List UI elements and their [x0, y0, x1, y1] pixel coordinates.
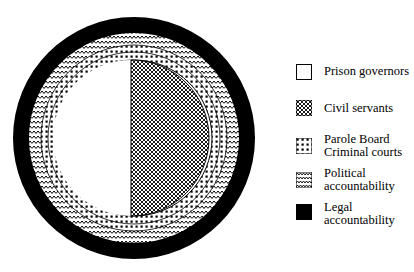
swatch-white-icon — [296, 64, 312, 80]
swatch-dots-icon — [296, 138, 312, 154]
accountability-circle-diagram — [0, 0, 270, 272]
legend-item-parole-board-criminal-courts: Parole Board Criminal courts — [296, 137, 402, 159]
swatch-crosshatch-icon — [296, 100, 312, 116]
legend-item-prison-governors: Prison governors — [296, 64, 409, 80]
swatch-zigzag-icon — [296, 172, 312, 188]
legend-label: Prison governors — [324, 65, 409, 78]
legend-label: Legal accountability — [324, 201, 395, 227]
legend-item-legal-accountability: Legal accountability — [296, 204, 395, 227]
legend-item-political-accountability: Political accountability — [296, 172, 395, 193]
swatch-black-icon — [296, 204, 312, 220]
legend-label: Parole Board Criminal courts — [324, 133, 402, 159]
legend-label: Political accountability — [324, 167, 395, 193]
legend-item-civil-servants: Civil servants — [296, 100, 393, 116]
legend-label: Civil servants — [324, 102, 393, 115]
